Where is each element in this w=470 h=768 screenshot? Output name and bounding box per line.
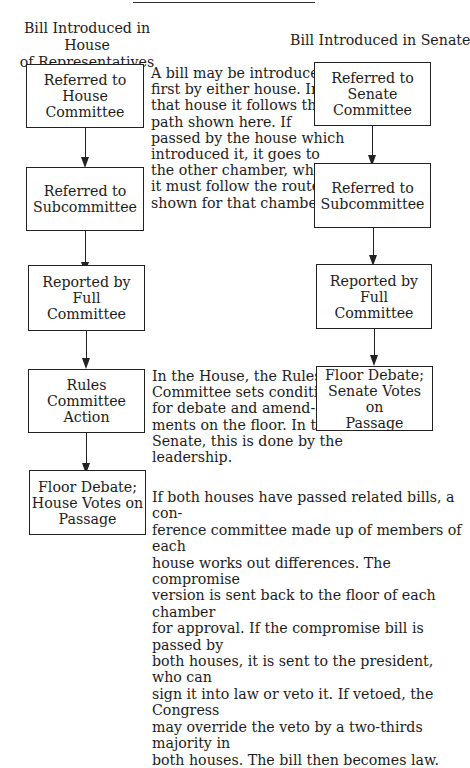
senate-step-referred-to-subcommittee: Referred to Subcommittee [314,163,431,228]
house-step-floor-debate: Floor Debate; House Votes on Passage [29,470,146,535]
connector [373,228,374,257]
note-rules-committee: In the House, the Rules Committee sets c… [152,368,343,465]
arrow-down-icon [370,355,378,366]
arrow-down-icon [82,358,90,369]
house-step-rules-committee-action: Rules Committee Action [28,369,145,433]
house-step-referred-to-subcommittee: Referred to Subcommittee [26,167,144,231]
connector [86,331,87,359]
house-step-reported-by-full-committee: Reported by Full Committee [28,265,145,331]
connector [86,433,87,464]
top-rule [133,2,315,3]
connector [85,128,86,158]
senate-column-heading: Bill Introduced in Senate [290,32,455,49]
senate-step-floor-debate: Floor Debate; Senate Votes on Passage [316,366,433,431]
senate-step-reported-by-full-committee: Reported by Full Committee [316,264,432,329]
connector [372,126,373,156]
senate-step-referred-to-committee: Referred to Senate Committee [314,62,431,126]
connector [374,329,375,357]
connector [85,231,86,264]
note-conference-committee: If both houses have passed related bills… [152,489,465,768]
house-step-referred-to-committee: Referred to House Committee [26,64,144,128]
